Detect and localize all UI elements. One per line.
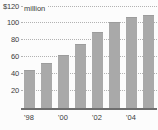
x-tick-label-00: '00 <box>52 114 74 122</box>
bar-05 <box>143 15 154 108</box>
gridline-100 <box>21 22 157 23</box>
y-axis-unit-label: million <box>24 4 48 13</box>
bar-99 <box>41 63 52 108</box>
y-tick-label-80: 80 <box>0 36 19 44</box>
y-tick-label-120: $120 <box>0 3 19 11</box>
bar-04 <box>126 17 137 108</box>
gridline-80 <box>21 39 157 40</box>
plot-area <box>21 4 157 110</box>
y-tick-label-20: 20 <box>0 87 19 95</box>
x-tick-label-98: '98 <box>18 114 40 122</box>
bar-01 <box>75 44 86 108</box>
y-tick-label-100: 100 <box>0 19 19 27</box>
bar-chart: million 20406080100$120 '98'00'02'04 <box>0 0 158 130</box>
x-tick-label-02: '02 <box>86 114 108 122</box>
gridline-60 <box>21 56 157 57</box>
y-tick-label-40: 40 <box>0 70 19 78</box>
bar-02 <box>92 32 103 108</box>
bar-03 <box>109 22 120 108</box>
bar-00 <box>58 55 69 108</box>
bar-98 <box>24 70 35 108</box>
y-tick-label-60: 60 <box>0 53 19 61</box>
x-tick-label-04: '04 <box>120 114 142 122</box>
